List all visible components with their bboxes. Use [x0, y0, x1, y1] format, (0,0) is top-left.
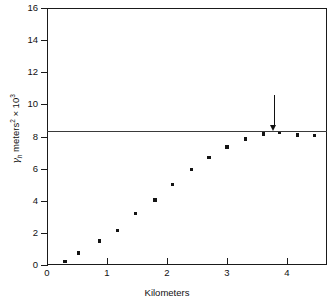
data-point: [313, 134, 316, 137]
semivariogram-figure: 0246810121416 01234 γh meters2 × 103 Kil…: [0, 0, 334, 307]
x-axis-tick: [167, 258, 168, 265]
data-point: [296, 133, 299, 136]
scale-exponent: 3: [9, 94, 16, 98]
data-point: [63, 260, 66, 263]
y-axis-tick: [41, 169, 48, 170]
x-axis-tick: [47, 258, 48, 265]
x-axis-tick-label: 2: [155, 267, 179, 278]
y-axis-tick-label: 14: [12, 35, 38, 45]
x-axis-tick-label: 0: [35, 267, 59, 278]
y-axis-tick: [41, 265, 48, 266]
gamma-subscript: h: [16, 155, 23, 159]
y-axis-tick: [41, 104, 48, 105]
data-point: [116, 229, 119, 232]
y-axis-scale: × 10: [10, 98, 21, 119]
data-point: [207, 156, 210, 159]
data-point: [77, 251, 80, 254]
y-axis-tick-label: 2: [12, 228, 38, 238]
y-axis-title: γh meters2 × 103: [9, 49, 23, 209]
range-arrow-head-icon: [270, 125, 276, 131]
gamma-symbol: γ: [10, 158, 21, 164]
x-axis-tick-label: 3: [215, 267, 239, 278]
data-point: [225, 145, 228, 148]
data-point: [171, 183, 174, 186]
data-point: [190, 168, 193, 171]
y-axis-tick: [41, 233, 48, 234]
data-point: [98, 239, 101, 242]
x-axis-tick: [107, 258, 108, 265]
meters-exponent: 2: [9, 119, 16, 123]
y-axis-tick-label: 16: [12, 3, 38, 13]
sill-reference-line: [47, 131, 327, 132]
data-point: [134, 212, 137, 215]
y-axis-tick: [41, 72, 48, 73]
x-axis-tick: [287, 258, 288, 265]
data-point: [153, 198, 156, 201]
x-axis-title: Kilometers: [0, 287, 334, 298]
x-axis-tick: [227, 258, 228, 265]
range-arrow-shaft-icon: [274, 95, 275, 126]
plot-area: [47, 8, 327, 265]
y-axis-tick: [41, 40, 48, 41]
x-axis-tick-label: 4: [275, 267, 299, 278]
y-axis-units: meters: [10, 123, 21, 155]
data-point: [244, 137, 247, 140]
x-axis-tick-label: 1: [95, 267, 119, 278]
data-point: [262, 132, 265, 135]
y-axis-tick: [41, 201, 48, 202]
y-axis-tick: [41, 8, 48, 9]
y-axis-tick: [41, 137, 48, 138]
